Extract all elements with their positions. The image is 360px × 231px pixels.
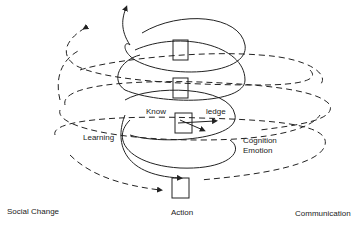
- label-social-change: Social Change: [7, 207, 59, 216]
- dashed-loop-left: [58, 50, 80, 100]
- solid-spiral-bottom: [121, 115, 180, 178]
- dashed-loop-bottom: [70, 155, 160, 190]
- spiral-diagram: Know ledge Learning Cognition Emotion So…: [0, 0, 360, 231]
- dashed-loop-top: [66, 28, 312, 85]
- solid-spiral-2: [118, 41, 245, 100]
- solid-spiral-4: [122, 120, 235, 168]
- label-know: Know: [146, 107, 166, 116]
- solid-rise-arrow: [123, 8, 130, 45]
- dashed-loop-1: [80, 54, 323, 85]
- box-level-2: [173, 78, 188, 98]
- spiral-drawing: [0, 0, 360, 231]
- solid-spiral-top: [125, 19, 245, 72]
- box-level-bottom: [172, 178, 189, 198]
- label-ledge: ledge: [206, 107, 226, 116]
- box-level-1: [173, 40, 188, 60]
- label-action: Action: [171, 208, 193, 217]
- label-communication: Communication: [295, 209, 351, 218]
- label-learning: Learning: [83, 133, 114, 142]
- label-cognition: Cognition: [243, 136, 277, 145]
- label-emotion: Emotion: [243, 146, 272, 155]
- dashed-loop-2: [65, 82, 331, 130]
